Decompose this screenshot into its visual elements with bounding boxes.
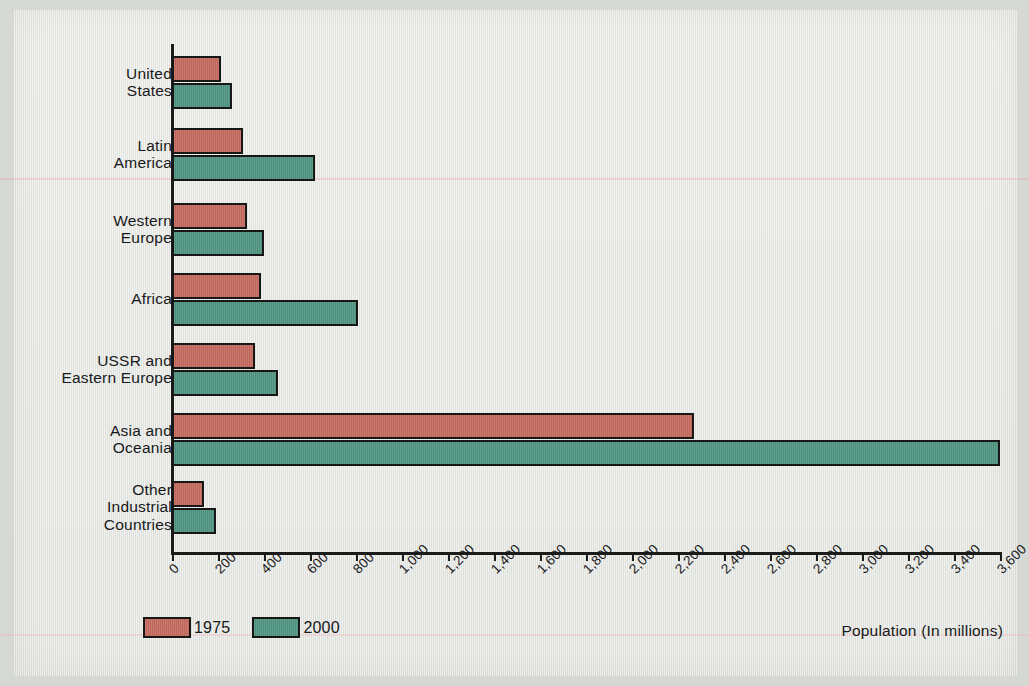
x-tick-label: 0 [166, 561, 182, 577]
bar-2000-6[interactable] [172, 508, 216, 534]
bar-1975-6[interactable] [172, 481, 204, 507]
chart-figure: United StatesLatin AmericaWestern Europe… [0, 0, 1029, 686]
x-tick-label: 2,800 [810, 541, 845, 576]
x-tick-label: 3,200 [902, 541, 937, 576]
x-tick-label: 3,000 [856, 541, 891, 576]
legend-swatch-1975 [143, 617, 191, 638]
bar-1975-3[interactable] [172, 273, 261, 299]
x-tick-label: 1,400 [488, 541, 523, 576]
x-tick-label: 2,600 [764, 541, 799, 576]
x-tick-label: 1,600 [534, 541, 569, 576]
x-tick-label: 1,000 [396, 541, 431, 576]
category-label: United States [126, 65, 172, 100]
x-tick-label: 2,400 [718, 541, 753, 576]
x-tick-label: 1,800 [580, 541, 615, 576]
legend-label-1975: 1975 [194, 619, 230, 637]
bar-2000-1[interactable] [172, 155, 315, 181]
x-tick-label: 1,200 [442, 541, 477, 576]
legend-item-1975[interactable]: 1975 [143, 617, 230, 638]
bar-1975-2[interactable] [172, 203, 247, 229]
bar-2000-3[interactable] [172, 300, 358, 326]
category-label: Western Europe [113, 212, 172, 247]
bar-1975-0[interactable] [172, 56, 221, 82]
x-axis-title: Population (In millions) [841, 622, 1003, 640]
legend-item-2000[interactable]: 2000 [252, 617, 339, 638]
x-tick-label: 2,000 [626, 541, 661, 576]
bar-2000-4[interactable] [172, 370, 278, 396]
category-label: Latin America [114, 137, 172, 172]
category-label: Other Industrial Countries [104, 481, 172, 534]
bar-2000-2[interactable] [172, 230, 264, 256]
legend-label-2000: 2000 [303, 619, 339, 637]
x-tick [172, 552, 174, 561]
category-label: Asia and Oceania [110, 422, 172, 457]
bar-1975-1[interactable] [172, 128, 243, 154]
category-label: Africa [131, 290, 172, 308]
bar-1975-4[interactable] [172, 343, 255, 369]
legend-swatch-2000 [252, 617, 300, 638]
bar-2000-5[interactable] [172, 440, 1000, 466]
x-tick-label: 2,200 [672, 541, 707, 576]
plot-area: United StatesLatin AmericaWestern Europe… [0, 0, 1029, 686]
category-label: USSR and Eastern Europe [61, 352, 172, 387]
bar-2000-0[interactable] [172, 83, 232, 109]
bar-1975-5[interactable] [172, 413, 694, 439]
x-tick-label: 3,400 [948, 541, 983, 576]
x-tick-label: 3,600 [994, 541, 1029, 576]
chart-legend: 1975 2000 [143, 617, 340, 638]
